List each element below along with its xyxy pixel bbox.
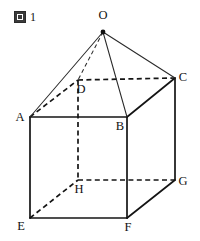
vertex-label-O: O <box>98 8 107 22</box>
edge-OA <box>30 32 103 117</box>
vertex-label-G: G <box>178 174 187 188</box>
edge-DC <box>78 78 175 80</box>
vertex-label-C: C <box>179 70 187 84</box>
vertex-label-D: D <box>76 82 85 96</box>
vertex-label-A: A <box>15 110 24 124</box>
edge-GF <box>127 180 175 218</box>
vertex-layer: OABCDEFGH <box>15 8 187 234</box>
edge-EH <box>30 180 78 218</box>
vertex-label-E: E <box>17 219 25 233</box>
vertex-label-F: F <box>125 220 132 234</box>
edge-layer <box>30 32 175 218</box>
edge-AD <box>30 80 78 117</box>
vertex-label-B: B <box>116 119 124 133</box>
solid-figure-diagram: OABCDEFGH <box>0 0 200 241</box>
vertex-dot-O <box>101 30 106 35</box>
edge-BC <box>127 78 175 117</box>
figure-panel: 1 OABCDEFGH <box>0 0 200 241</box>
vertex-label-H: H <box>74 182 83 196</box>
